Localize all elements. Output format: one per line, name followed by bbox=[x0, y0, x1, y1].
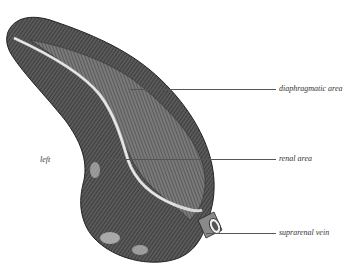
leader-line-vein bbox=[206, 233, 276, 234]
leader-line-diaphragmatic bbox=[130, 89, 276, 90]
label-left: left bbox=[40, 155, 50, 164]
label-renal-area: renal area bbox=[279, 154, 312, 163]
label-suprarenal-vein: suprarenal vein bbox=[279, 228, 329, 237]
label-diaphragmatic-area: diaphragmatic area bbox=[279, 84, 342, 93]
suprarenal-gland-illustration bbox=[0, 0, 359, 279]
leader-line-renal bbox=[106, 159, 276, 160]
